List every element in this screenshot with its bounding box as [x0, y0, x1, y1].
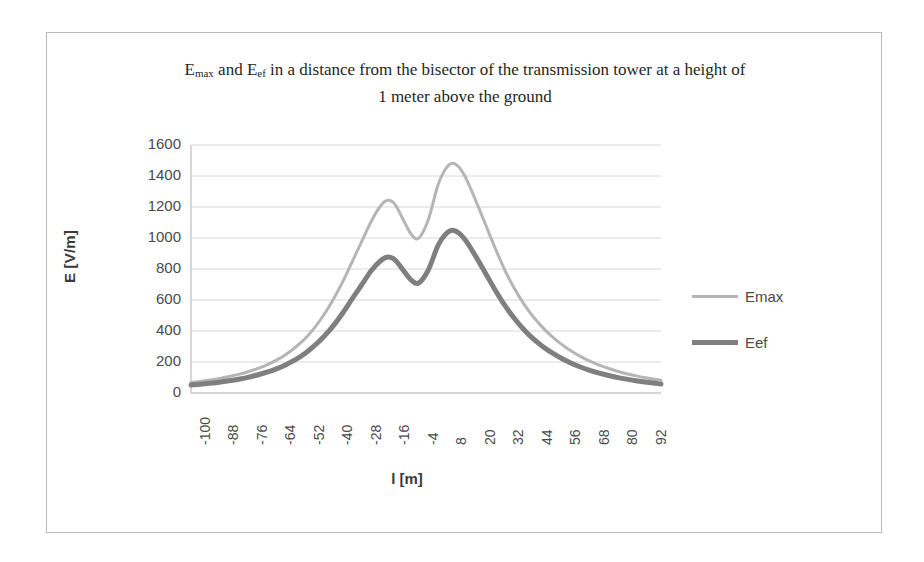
- legend-label: Eef: [745, 334, 768, 351]
- legend-label: Emax: [745, 288, 783, 305]
- legend-item[interactable]: Emax: [692, 273, 872, 319]
- plot-area: E [V/m] l [m] 16001400120010008006004002…: [47, 33, 883, 534]
- legend-item[interactable]: Eef: [692, 319, 872, 365]
- chart-frame: Emax and Eef in a distance from the bise…: [46, 32, 882, 533]
- legend-line-swatch: [692, 340, 738, 345]
- chart-legend: EmaxEef: [692, 273, 872, 365]
- legend-line-swatch: [692, 295, 738, 298]
